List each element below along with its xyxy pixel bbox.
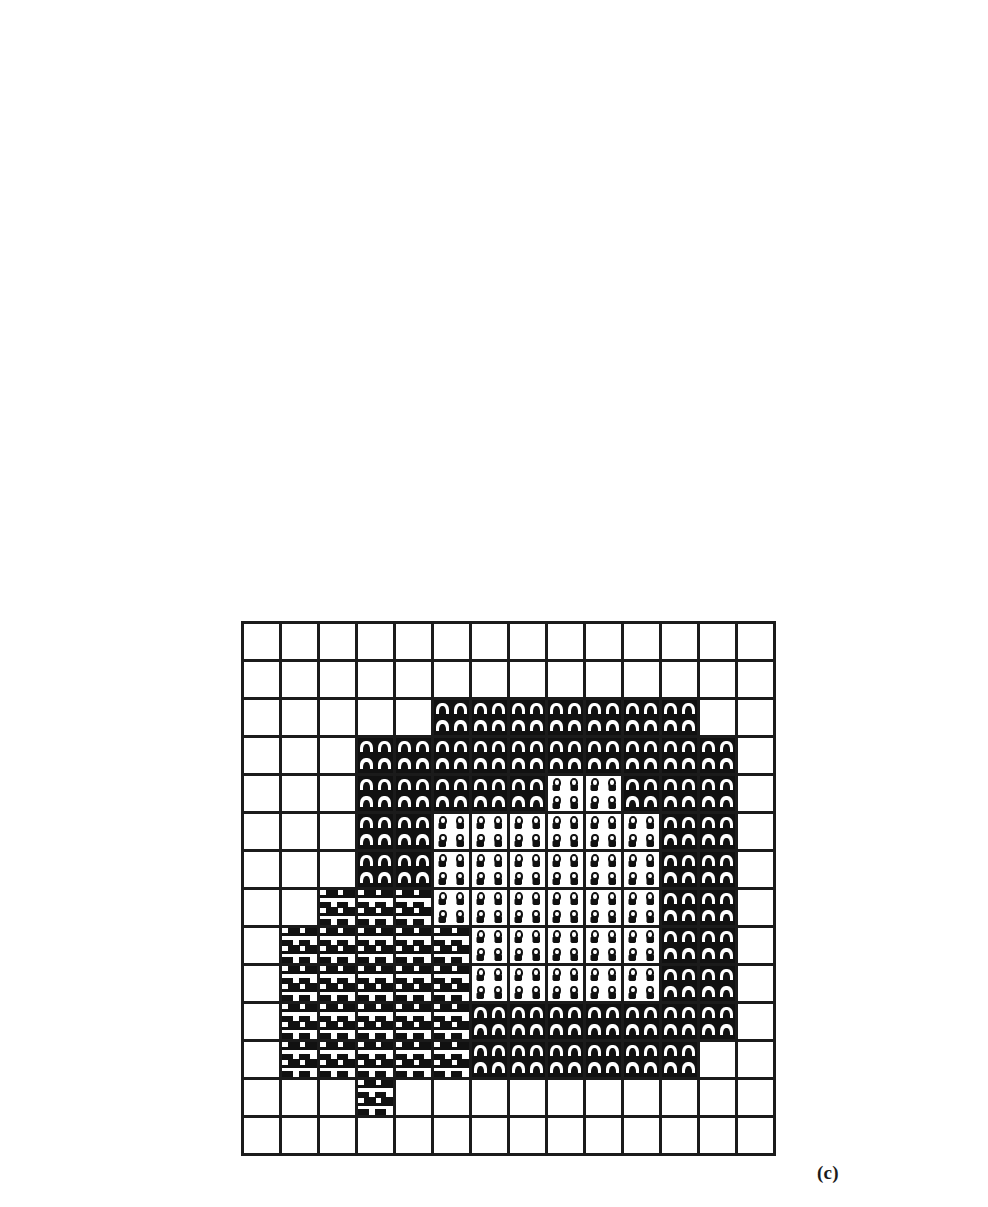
grid-cell[interactable]: [358, 1118, 396, 1156]
grid-cell[interactable]: [155, 220, 195, 260]
grid-cell[interactable]: [115, 460, 155, 500]
grid-cell[interactable]: [510, 398, 551, 439]
grid-cell[interactable]: [700, 662, 738, 700]
grid-cell[interactable]: [624, 852, 662, 890]
grid-cell[interactable]: [396, 1042, 434, 1080]
grid-cell[interactable]: [624, 966, 662, 1004]
grid-cell[interactable]: [674, 29, 715, 70]
grid-cell[interactable]: [700, 738, 738, 776]
grid-cell[interactable]: [756, 357, 797, 398]
grid-cell[interactable]: [756, 398, 797, 439]
grid-cell[interactable]: [715, 152, 756, 193]
grid-cell[interactable]: [244, 890, 282, 928]
grid-cell[interactable]: [674, 439, 715, 480]
grid-cell[interactable]: [715, 357, 756, 398]
grid-cell[interactable]: [756, 316, 797, 357]
grid-cell[interactable]: [434, 624, 472, 662]
grid-cell[interactable]: [282, 1080, 320, 1118]
grid-cell[interactable]: [434, 966, 472, 1004]
grid-cell[interactable]: [434, 700, 472, 738]
grid-cell[interactable]: [244, 928, 282, 966]
grid-cell[interactable]: [738, 852, 776, 890]
grid-cell[interactable]: [320, 852, 358, 890]
grid-cell[interactable]: [548, 1004, 586, 1042]
grid-cell[interactable]: [756, 152, 797, 193]
grid-cell[interactable]: [674, 316, 715, 357]
grid-cell[interactable]: [115, 420, 155, 460]
grid-cell[interactable]: [35, 300, 75, 340]
grid-cell[interactable]: [551, 357, 592, 398]
grid-cell[interactable]: [396, 738, 434, 776]
grid-cell[interactable]: [586, 738, 624, 776]
grid-cell[interactable]: [700, 852, 738, 890]
grid-cell[interactable]: [592, 152, 633, 193]
grid-cell[interactable]: [756, 439, 797, 480]
grid-cell[interactable]: [434, 928, 472, 966]
grid-cell[interactable]: [592, 316, 633, 357]
grid-cell[interactable]: [434, 1118, 472, 1156]
grid-cell[interactable]: [358, 1004, 396, 1042]
grid-cell[interactable]: [358, 776, 396, 814]
grid-cell[interactable]: [551, 29, 592, 70]
grid-cell[interactable]: [358, 928, 396, 966]
grid-cell[interactable]: [838, 193, 879, 234]
grid-cell[interactable]: [624, 928, 662, 966]
grid-cell[interactable]: [700, 966, 738, 1004]
grid-cell[interactable]: [715, 398, 756, 439]
grid-cell[interactable]: [434, 776, 472, 814]
grid-cell[interactable]: [469, 111, 510, 152]
grid-cell[interactable]: [469, 29, 510, 70]
grid-cell[interactable]: [662, 966, 700, 1004]
grid-cell[interactable]: [75, 220, 115, 260]
grid-cell[interactable]: [472, 1004, 510, 1042]
grid-cell[interactable]: [624, 776, 662, 814]
grid-cell[interactable]: [235, 340, 275, 380]
grid-cell[interactable]: [797, 193, 838, 234]
grid-cell[interactable]: [510, 662, 548, 700]
grid-cell[interactable]: [469, 357, 510, 398]
grid-cell[interactable]: [434, 1004, 472, 1042]
grid-cell[interactable]: [387, 234, 428, 275]
grid-cell[interactable]: [358, 1042, 396, 1080]
grid-cell[interactable]: [715, 316, 756, 357]
grid-cell[interactable]: [510, 70, 551, 111]
grid-cell[interactable]: [510, 966, 548, 1004]
grid-cell[interactable]: [592, 111, 633, 152]
grid-cell[interactable]: [387, 480, 428, 521]
grid-cell[interactable]: [700, 814, 738, 852]
grid-cell[interactable]: [235, 220, 275, 260]
grid-cell[interactable]: [586, 624, 624, 662]
grid-cell[interactable]: [387, 29, 428, 70]
grid-cell[interactable]: [235, 420, 275, 460]
grid-cell[interactable]: [244, 852, 282, 890]
grid-cell[interactable]: [434, 814, 472, 852]
grid-cell[interactable]: [633, 316, 674, 357]
grid-cell[interactable]: [624, 662, 662, 700]
grid-cell[interactable]: [700, 624, 738, 662]
grid-cell[interactable]: [633, 234, 674, 275]
grid-cell[interactable]: [510, 814, 548, 852]
grid-cell[interactable]: [387, 70, 428, 111]
grid-cell[interactable]: [434, 852, 472, 890]
grid-cell[interactable]: [510, 776, 548, 814]
grid-cell[interactable]: [674, 111, 715, 152]
grid-cell[interactable]: [797, 357, 838, 398]
grid-cell[interactable]: [662, 852, 700, 890]
grid-cell[interactable]: [510, 480, 551, 521]
grid-cell[interactable]: [115, 380, 155, 420]
grid-cell[interactable]: [155, 260, 195, 300]
grid-cell[interactable]: [797, 152, 838, 193]
grid-cell[interactable]: [586, 662, 624, 700]
grid-cell[interactable]: [244, 738, 282, 776]
grid-cell[interactable]: [75, 420, 115, 460]
grid-cell[interactable]: [624, 738, 662, 776]
grid-cell[interactable]: [700, 928, 738, 966]
grid-cell[interactable]: [472, 700, 510, 738]
grid-cell[interactable]: [797, 398, 838, 439]
grid-cell[interactable]: [428, 193, 469, 234]
grid-cell[interactable]: [586, 776, 624, 814]
grid-cell[interactable]: [738, 662, 776, 700]
grid-cell[interactable]: [838, 357, 879, 398]
grid-cell[interactable]: [472, 890, 510, 928]
grid-cell[interactable]: [551, 234, 592, 275]
